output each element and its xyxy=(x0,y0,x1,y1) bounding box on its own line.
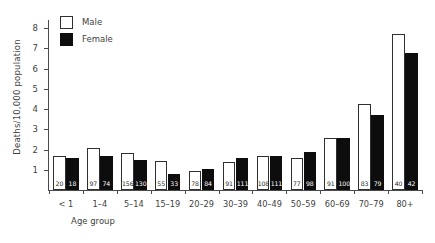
x-category-label: 40–49 xyxy=(252,200,286,209)
x-tick xyxy=(49,190,50,194)
bar-female: 84 xyxy=(202,169,215,190)
x-category-label: 30–39 xyxy=(219,200,253,209)
bar-count-label: 18 xyxy=(67,181,78,188)
bar-male: 91 xyxy=(324,138,337,190)
x-category-label: 15–19 xyxy=(151,200,185,209)
bar-count-label: 20 xyxy=(54,181,65,188)
x-category-label: 1–4 xyxy=(83,200,117,209)
bar-count-label: 91 xyxy=(325,181,336,188)
y-tick xyxy=(44,48,48,49)
bar-chart: Deaths/10,000 population 12345678 Male F… xyxy=(0,0,435,243)
bar-female: 98 xyxy=(304,152,317,190)
bar-male: 108 xyxy=(257,156,270,190)
y-tick xyxy=(44,129,48,130)
x-tick xyxy=(422,190,423,194)
bar-group: 2018 xyxy=(53,20,79,190)
bar-group: 91111 xyxy=(223,20,249,190)
y-tick xyxy=(44,150,48,151)
bar-male: 91 xyxy=(223,162,236,190)
bar-count-label: 40 xyxy=(393,181,404,188)
bar-female: 111 xyxy=(270,156,283,190)
x-tick xyxy=(83,190,84,194)
y-tick-label: 8 xyxy=(0,24,38,33)
y-tick xyxy=(44,28,48,29)
x-category-label: 70–79 xyxy=(354,200,388,209)
bar-female: 79 xyxy=(371,115,384,190)
bar-count-label: 91 xyxy=(224,181,235,188)
x-category-label: < 1 xyxy=(49,200,83,209)
bar-count-label: 78 xyxy=(190,181,201,188)
bar-group: 4042 xyxy=(392,20,418,190)
bar-female: 42 xyxy=(405,53,418,190)
x-tick xyxy=(117,190,118,194)
y-tick-label: 7 xyxy=(0,44,38,53)
x-tick xyxy=(185,190,186,194)
bar-count-label: 130 xyxy=(135,181,146,188)
x-axis-title: Age group xyxy=(48,216,138,226)
x-tick xyxy=(286,190,287,194)
bar-female: 74 xyxy=(100,156,113,190)
x-category-label: 20–29 xyxy=(185,200,219,209)
bar-female: 100 xyxy=(337,138,350,190)
y-tick-label: 3 xyxy=(0,125,38,134)
y-tick xyxy=(44,89,48,90)
x-tick xyxy=(320,190,321,194)
bar-female: 111 xyxy=(236,158,249,190)
bar-count-label: 74 xyxy=(101,181,112,188)
bar-count-label: 55 xyxy=(156,181,167,188)
y-tick-label: 6 xyxy=(0,65,38,74)
y-tick-label: 4 xyxy=(0,105,38,114)
bar-male: 40 xyxy=(392,34,405,190)
bar-group: 7884 xyxy=(189,20,215,190)
bar-male: 78 xyxy=(189,171,202,190)
x-axis-line xyxy=(48,190,422,191)
bar-group: 156130 xyxy=(121,20,147,190)
bar-female: 18 xyxy=(66,158,79,190)
bar-male: 83 xyxy=(358,104,371,190)
bar-count-label: 111 xyxy=(271,181,282,188)
bar-female: 130 xyxy=(134,160,147,190)
bar-male: 55 xyxy=(155,161,168,190)
bar-male: 156 xyxy=(121,153,134,190)
y-tick xyxy=(44,170,48,171)
bar-count-label: 79 xyxy=(372,181,383,188)
bar-count-label: 100 xyxy=(338,181,349,188)
bar-count-label: 108 xyxy=(258,181,269,188)
y-tick-label: 2 xyxy=(0,146,38,155)
x-tick xyxy=(354,190,355,194)
bar-count-label: 97 xyxy=(88,181,99,188)
bar-group: 91100 xyxy=(324,20,350,190)
bar-group: 8379 xyxy=(358,20,384,190)
x-tick xyxy=(219,190,220,194)
y-tick xyxy=(44,109,48,110)
y-tick xyxy=(44,69,48,70)
bar-group: 7798 xyxy=(291,20,317,190)
y-tick-label: 5 xyxy=(0,85,38,94)
bar-male: 77 xyxy=(291,158,304,190)
x-tick xyxy=(151,190,152,194)
x-category-label: 5–14 xyxy=(117,200,151,209)
bar-count-label: 111 xyxy=(237,181,248,188)
bar-male: 97 xyxy=(87,148,100,190)
bar-count-label: 156 xyxy=(122,181,133,188)
x-category-label: 50–59 xyxy=(286,200,320,209)
bar-count-label: 33 xyxy=(169,181,180,188)
x-tick xyxy=(388,190,389,194)
x-category-label: 80+ xyxy=(388,200,422,209)
x-category-label: 60–69 xyxy=(320,200,354,209)
bar-count-label: 42 xyxy=(406,181,417,188)
bar-count-label: 98 xyxy=(305,181,316,188)
x-tick xyxy=(252,190,253,194)
bar-count-label: 77 xyxy=(292,181,303,188)
bar-group: 9774 xyxy=(87,20,113,190)
bar-group: 5533 xyxy=(155,20,181,190)
plot-area: 2018977415613055337884911111081117798911… xyxy=(49,20,422,190)
bar-female: 33 xyxy=(168,174,181,190)
bar-group: 108111 xyxy=(257,20,283,190)
bar-count-label: 84 xyxy=(203,181,214,188)
bar-male: 20 xyxy=(53,156,66,190)
y-tick-label: 1 xyxy=(0,166,38,175)
bar-count-label: 83 xyxy=(359,181,370,188)
